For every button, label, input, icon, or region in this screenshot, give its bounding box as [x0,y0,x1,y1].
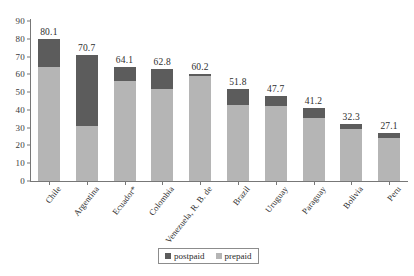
bar-stack [38,39,60,181]
plot-area: 0102030405060708090 80.170.764.162.860.2… [30,21,408,181]
chart-legend: postpaidprepaid [158,248,259,264]
bar-stack [303,108,325,181]
bar-segment-prepaid[interactable] [340,129,362,181]
x-axis-label: Brazil [231,184,252,207]
x-axis-label: Uruguay [263,184,290,214]
bar-segment-prepaid[interactable] [189,76,211,181]
bar-stack [265,96,287,181]
bar-group[interactable]: 27.1 [378,21,400,181]
legend-label: prepaid [225,251,252,261]
bar-segment-postpaid[interactable] [265,96,287,106]
bar-group[interactable]: 64.1 [114,21,136,181]
y-axis-tick-mark [27,181,30,182]
bar-stack [378,133,400,181]
legend-item[interactable]: prepaid [216,251,252,261]
bar-segment-prepaid[interactable] [76,126,98,181]
x-axis-label: Ecuador* [110,184,139,217]
bar-segment-prepaid[interactable] [151,89,173,181]
x-axis-label: Colombia [147,184,176,218]
y-axis-tick-mark [27,56,30,57]
y-axis-tick-mark [27,38,30,39]
x-axis-tick-mark [125,181,126,185]
legend-swatch-icon [216,253,222,259]
bar-segment-postpaid[interactable] [227,89,249,105]
bar-segment-prepaid[interactable] [114,81,136,181]
bar-segment-postpaid[interactable] [114,67,136,81]
bar-stack [76,55,98,181]
legend-label: postpaid [174,251,205,261]
bar-group[interactable]: 60.2 [189,21,211,181]
y-axis-tick-mark [27,145,30,146]
bar-group[interactable]: 62.8 [151,21,173,181]
bar-group[interactable]: 32.3 [340,21,362,181]
bar-stack [114,67,136,181]
bar-group[interactable]: 80.1 [38,21,60,181]
legend-item[interactable]: postpaid [165,251,205,261]
bar-segment-postpaid[interactable] [76,55,98,126]
y-axis-tick-mark [27,74,30,75]
bar-value-label: 80.1 [26,27,72,37]
y-axis-tick-mark [27,21,30,22]
x-axis-label: Bolivia [341,184,365,211]
bar-group[interactable]: 47.7 [265,21,287,181]
bar-value-label: 27.1 [366,121,412,131]
bar-value-label: 70.7 [64,43,110,53]
bar-stack [227,89,249,181]
bar-stack [189,74,211,181]
bar-segment-prepaid[interactable] [227,105,249,181]
bar-group[interactable]: 51.8 [227,21,249,181]
x-axis-tick-mark [200,181,201,185]
x-axis-tick-mark [162,181,163,185]
y-axis-tick-mark [27,163,30,164]
x-axis-label: Argentina [71,184,100,218]
bar-value-label: 47.7 [253,84,299,94]
bar-value-label: 41.2 [291,96,337,106]
x-axis-tick-mark [49,181,50,185]
legend-swatch-icon [165,253,171,259]
bar-segment-prepaid[interactable] [303,118,325,181]
bar-segment-prepaid[interactable] [38,67,60,181]
bar-segment-prepaid[interactable] [265,106,287,181]
x-axis-tick-mark [87,181,88,185]
x-axis-label: Paraguay [299,184,327,216]
bar-group[interactable]: 41.2 [303,21,325,181]
y-axis-tick-mark [27,92,30,93]
x-axis-tick-mark [276,181,277,185]
x-axis-label: Chile [43,184,63,205]
y-axis-tick-mark [27,109,30,110]
stacked-bar-chart: 0102030405060708090 80.170.764.162.860.2… [0,0,414,276]
bar-value-label: 60.2 [177,62,223,72]
bar-segment-postpaid[interactable] [38,39,60,67]
x-axis-tick-mark [314,181,315,185]
bar-segment-prepaid[interactable] [378,138,400,181]
x-axis-tick-mark [389,181,390,185]
x-axis-tick-mark [351,181,352,185]
bar-segment-postpaid[interactable] [303,108,325,118]
x-axis-label: Peru [385,184,403,203]
bar-segment-postpaid[interactable] [151,69,173,88]
bar-stack [340,124,362,181]
x-axis-tick-mark [238,181,239,185]
bar-group[interactable]: 70.7 [76,21,98,181]
y-axis-tick-mark [27,127,30,128]
bar-stack [151,69,173,181]
